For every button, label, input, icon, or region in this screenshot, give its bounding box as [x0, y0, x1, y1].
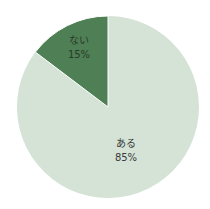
label-nai: ない 15% — [59, 34, 99, 62]
label-aru: ある 85% — [106, 137, 146, 165]
label-nai-name: ない — [59, 34, 99, 48]
pie-chart — [0, 0, 210, 209]
label-nai-pct: 15% — [59, 48, 99, 62]
label-aru-pct: 85% — [106, 151, 146, 165]
label-aru-name: ある — [106, 137, 146, 151]
